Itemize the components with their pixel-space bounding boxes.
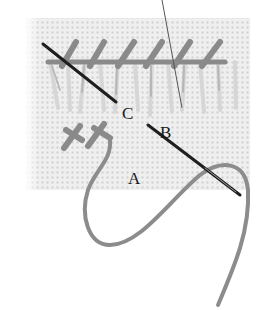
label-b: B [160, 124, 171, 141]
label-a: A [128, 170, 140, 187]
stitch-illustration: C B A [0, 0, 264, 310]
illustration-svg [0, 0, 264, 310]
label-c: C [122, 105, 133, 122]
